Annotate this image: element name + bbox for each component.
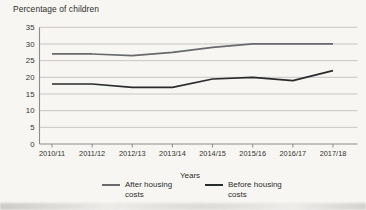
y-axis-tick-label: 15: [26, 90, 35, 99]
x-axis-tick-label: 2014/15: [199, 149, 226, 158]
after-housing-costs-line-swatch: [102, 184, 120, 186]
y-axis-tick-label: 10: [26, 106, 35, 115]
y-axis-tick-label: 25: [26, 56, 35, 65]
x-axis-tick-label: 2011/12: [79, 149, 105, 158]
legend-item-before-housing-costs: Before housing costs: [205, 180, 290, 200]
series-line-after-housing-costs: [52, 44, 333, 56]
legend-label-before-housing-costs: Before housing costs: [228, 180, 290, 200]
chart-plot-area: 051015202530352010/112011/122012/132013/…: [0, 0, 366, 170]
x-axis-tick-label: 2016/17: [279, 149, 306, 158]
scan-artifact: [0, 203, 366, 210]
x-axis-tick-label: 2013/14: [159, 149, 186, 158]
legend: After housing costs Before housing costs: [0, 180, 366, 204]
chart-canvas: Percentage of children 05101520253035201…: [0, 0, 366, 210]
x-axis-title: Years: [110, 171, 270, 180]
legend-item-after-housing-costs: After housing costs: [102, 180, 187, 200]
x-axis-tick-label: 2012/13: [119, 149, 146, 158]
legend-label-after-housing-costs: After housing costs: [125, 180, 187, 200]
x-axis-tick-label: 2017/18: [320, 149, 347, 158]
y-axis-tick-label: 0: [30, 140, 35, 149]
series-line-before-housing-costs: [52, 71, 333, 88]
y-axis-tick-label: 35: [26, 23, 35, 32]
y-axis-tick-label: 5: [30, 123, 35, 132]
y-axis-tick-label: 30: [26, 40, 35, 49]
y-axis-tick-label: 20: [26, 73, 35, 82]
before-housing-costs-line-swatch: [205, 184, 223, 186]
x-axis-tick-label: 2015/16: [239, 149, 266, 158]
x-axis-tick-label: 2010/11: [39, 149, 65, 158]
